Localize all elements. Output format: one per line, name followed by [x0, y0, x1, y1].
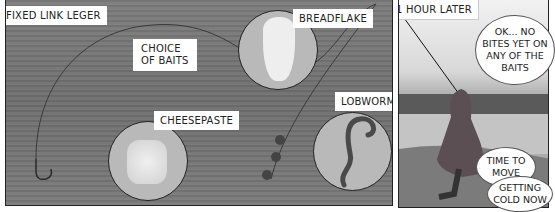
cheesepaste-icon: [127, 140, 167, 184]
one-hour-later-caption: 1 HOUR LATER: [398, 0, 479, 20]
bubble-text-line: TIME TO: [486, 155, 525, 167]
speech-bubble-no-bites: OK... NO BITES YET ON ANY OF THE BAITS: [475, 15, 555, 85]
bubble-text-line: COLD NOW: [493, 194, 547, 206]
lobworm-label: LOBWORM: [335, 92, 393, 111]
bubble-text-line: OK... NO: [482, 26, 547, 38]
bait-table-panel: FIXED LINK LEGER CHOICE OF BAITS BREADFL…: [5, 0, 393, 206]
cheesepaste-label: CHEESEPASTE: [154, 111, 239, 130]
cheesepaste-bait-circle: [108, 121, 188, 201]
bubble-text-line: GETTING: [493, 182, 547, 194]
breadflake-label: BREADFLAKE: [293, 9, 373, 28]
bubble-text-line: BITES YET ON: [482, 38, 547, 50]
bubble-text-line: ANY OF THE: [482, 50, 547, 62]
choice-of-baits-label: CHOICE OF BAITS: [133, 39, 197, 71]
fixed-link-leger-label: FIXED LINK LEGER: [5, 6, 107, 25]
lobworm-icon: [314, 113, 393, 192]
lobworm-bait-circle: [313, 112, 392, 191]
speech-bubble-getting-cold: GETTING COLD NOW: [487, 176, 553, 212]
bubble-text-line: BAITS: [482, 62, 547, 74]
breadflake-icon: [263, 17, 295, 81]
choice-of-baits-line1: CHOICE: [141, 43, 189, 55]
choice-of-baits-line2: OF BAITS: [141, 55, 189, 67]
